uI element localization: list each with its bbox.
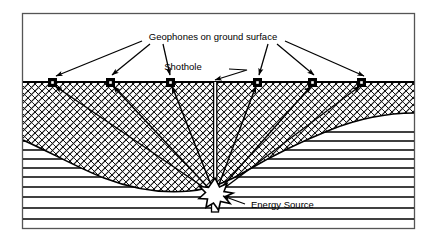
geophone-3 — [166, 78, 175, 87]
geophone-1 — [48, 78, 57, 87]
shothole-label: Shothole — [164, 61, 202, 72]
seismic-survey-figure: Geophones on ground surface Shothole Ene… — [0, 0, 436, 243]
geophone-5 — [308, 78, 317, 87]
geophones-label: Geophones on ground surface — [149, 31, 277, 42]
diagram-canvas: Geophones on ground surface Shothole Ene… — [0, 0, 436, 243]
geophone-6 — [357, 78, 366, 87]
geophone-2 — [106, 78, 115, 87]
energy-source-label: Energy Source — [251, 199, 314, 210]
geophone-4 — [253, 78, 262, 87]
